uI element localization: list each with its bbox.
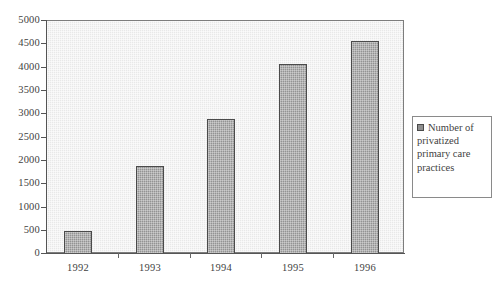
x-tick-label-1996: 1996 — [335, 262, 395, 274]
x-tick-label-1994: 1994 — [191, 262, 251, 274]
y-axis-labels: 5000 4500 4000 3500 3000 2500 2000 1500 … — [0, 0, 40, 286]
x-tick — [333, 253, 334, 258]
y-tick — [41, 67, 47, 68]
y-tick — [41, 230, 47, 231]
bar-1995 — [279, 64, 307, 254]
y-tick — [41, 137, 47, 138]
y-tick-label: 4000 — [4, 62, 40, 73]
y-tick-label: 3000 — [4, 108, 40, 119]
legend-entry-label: Number of privatized primary care practi… — [417, 122, 474, 173]
y-tick — [41, 207, 47, 208]
y-tick-label: 1500 — [4, 178, 40, 189]
y-tick — [41, 160, 47, 161]
y-tick — [41, 43, 47, 44]
x-tick — [190, 253, 191, 258]
x-tick-label-1995: 1995 — [263, 262, 323, 274]
x-tick-label-1992: 1992 — [48, 262, 108, 274]
y-tick — [41, 90, 47, 91]
chart-legend: Number of privatized primary care practi… — [412, 116, 492, 198]
y-tick-label: 2500 — [4, 132, 40, 143]
y-tick-label: 5000 — [4, 15, 40, 26]
y-tick-label: 500 — [4, 225, 40, 236]
x-axis-line — [46, 253, 405, 254]
bar-1996 — [351, 41, 379, 254]
x-tick-label-1993: 1993 — [120, 262, 180, 274]
x-tick — [118, 253, 119, 258]
y-tick-label: 3500 — [4, 85, 40, 96]
y-tick — [41, 20, 47, 21]
bar-chart: 5000 4500 4000 3500 3000 2500 2000 1500 … — [0, 0, 498, 286]
y-tick-label: 1000 — [4, 202, 40, 213]
legend-entry: Number of privatized primary care practi… — [417, 121, 488, 174]
y-tick-label: 2000 — [4, 155, 40, 166]
bar-1994 — [207, 119, 235, 254]
y-tick — [41, 183, 47, 184]
x-tick — [261, 253, 262, 258]
bar-1992 — [64, 231, 92, 254]
legend-swatch-icon — [417, 124, 424, 131]
y-tick — [41, 113, 47, 114]
bar-1993 — [136, 166, 164, 254]
y-tick-label: 4500 — [4, 38, 40, 49]
y-tick-label: 0 — [4, 248, 40, 259]
